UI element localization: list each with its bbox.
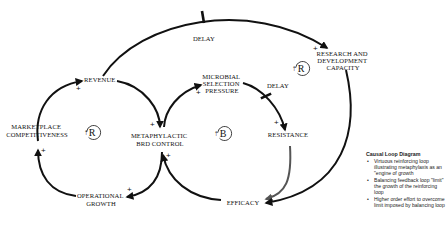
node-resistance: RESISTANCE [268, 131, 308, 138]
svg-text:R: R [89, 127, 96, 138]
link-resistance-to-efficacy [266, 146, 290, 199]
polarity-microbial: + [196, 88, 201, 97]
delay-label-top: DELAY [193, 35, 215, 42]
legend: Causal Loop Diagram Virtuous reinforcing… [366, 151, 446, 208]
node-revenue: REVENUE [84, 76, 115, 83]
node-microbial-selection-pressure: MICROBIAL SELECTION PRESSURE [202, 73, 241, 94]
polarity-revenue: + [76, 84, 81, 93]
polarity-research: + [313, 44, 318, 53]
svg-text:↑: ↑ [84, 128, 88, 137]
legend-item: Balancing feedback loop "limit" the grow… [374, 177, 446, 196]
legend-title: Causal Loop Diagram [366, 151, 446, 157]
node-efficacy: EFFICACY [227, 199, 260, 206]
node-operational-growth: OPERATIONAL GROWTH [77, 192, 125, 207]
loop-indicator-top-reinforcing: R ↑ [292, 61, 310, 75]
loop-indicator-middle-balancing: B ↑ [214, 127, 232, 141]
node-metaphylactic-brd-control: METAPHYLACTIC BRD CONTROL [131, 132, 189, 147]
delay-label-middle: DELAY [267, 82, 289, 89]
polarity-resistance: + [274, 118, 279, 127]
legend-item: Higher order effort to overcome limit im… [374, 196, 446, 209]
node-research-development-capacity: RESEARCH AND DEVELOPMENT CAPACITY [317, 50, 370, 71]
svg-text:↑: ↑ [292, 64, 296, 73]
polarity-metaphylactic-in: + [150, 120, 155, 129]
node-marketplace-competitiveness: MARKETPLACE COMPETITIVENESS [6, 123, 68, 138]
link-microbial-to-resistance [243, 83, 285, 130]
svg-text:↑: ↑ [214, 129, 218, 138]
link-metaphylactic-to-operational [127, 152, 162, 197]
svg-text:R: R [298, 63, 305, 74]
legend-list: Virtuous reinforcing loop illustrating m… [366, 158, 446, 208]
svg-text:B: B [220, 128, 227, 139]
legend-item: Virtuous reinforcing loop illustrating m… [374, 158, 446, 177]
polarity-marketplace: + [41, 146, 46, 155]
link-operational-to-marketplace [38, 150, 76, 196]
polarity-operational: + [127, 185, 132, 194]
link-efficacy-to-metaphylactic [163, 155, 221, 200]
polarity-metaphylactic-out: + [166, 151, 171, 160]
loop-indicator-left-reinforcing: R ↑ [84, 126, 101, 140]
